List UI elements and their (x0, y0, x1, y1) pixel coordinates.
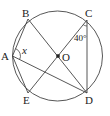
segment-ae (13, 56, 29, 93)
segment-ad (13, 56, 88, 93)
geometry-diagram: B C A O E D x 40° (0, 0, 110, 116)
angle-arc-40 (83, 25, 87, 26)
label-b: B (22, 7, 29, 19)
label-e: E (23, 94, 30, 106)
label-d: D (85, 94, 93, 106)
label-o: O (62, 51, 70, 63)
label-a: A (1, 50, 9, 62)
label-angle-x: x (21, 44, 27, 56)
center-point-o (56, 54, 59, 57)
label-c: C (85, 7, 92, 19)
label-angle-40: 40° (74, 33, 87, 43)
